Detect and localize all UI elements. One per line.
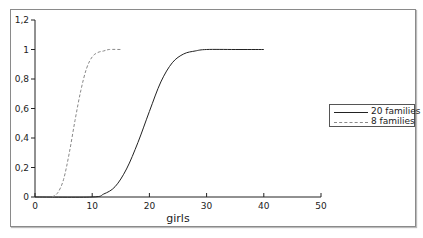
dashed-line-swatch-icon (334, 122, 368, 123)
data-lines (35, 49, 264, 197)
y-tick-label: 0,2 (15, 163, 29, 173)
x-tick-label: 40 (258, 201, 270, 211)
y-tick-label: 0,4 (15, 133, 30, 143)
legend: 20 families 8 families (329, 104, 415, 127)
y-tick-label: 1,2 (15, 15, 29, 25)
y-tick-label: 1 (23, 45, 29, 55)
legend-item-8-families: 8 families (330, 117, 416, 127)
legend-label: 20 families (371, 106, 421, 116)
series-line-20-families (35, 49, 264, 197)
y-tick-label: 0,6 (15, 104, 30, 114)
axes: 0102030405000,20,40,60,811,2 (15, 15, 327, 211)
x-tick-label: 20 (144, 201, 156, 211)
solid-line-swatch-icon (334, 112, 368, 113)
x-tick-label: 30 (201, 201, 213, 211)
x-tick-label: 10 (86, 201, 98, 211)
x-tick-label: 50 (315, 201, 327, 211)
legend-label: 8 families (371, 116, 415, 126)
y-tick-label: 0 (23, 192, 29, 202)
series-line-8-families (52, 49, 121, 197)
y-tick-label: 0,8 (15, 74, 30, 84)
x-tick-label: 0 (32, 201, 38, 211)
x-axis-label: girls (166, 212, 190, 225)
